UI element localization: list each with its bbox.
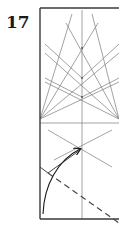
valley-fold-dashed-line <box>48 173 119 223</box>
fold-diagram <box>0 0 119 226</box>
lower-x-crease-a <box>48 130 112 167</box>
crease-lines <box>40 10 119 219</box>
lower-x-crease-b <box>54 130 112 160</box>
curved-fold-arrow <box>43 149 80 214</box>
fold-edge <box>40 150 80 173</box>
